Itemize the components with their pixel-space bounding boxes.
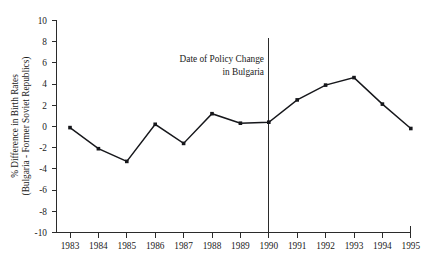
x-tick-label: 1989 — [231, 241, 250, 251]
y-tick-label: 8 — [42, 37, 47, 47]
x-axis-ticks — [70, 233, 411, 238]
y-axis-ticks — [52, 20, 57, 232]
x-tick-label: 1986 — [146, 241, 165, 251]
data-point-marker — [97, 147, 101, 151]
y-axis-title-line1: % Difference in Birth Rates — [10, 74, 20, 178]
chart-canvas: 10 8 6 4 2 0 -2 -4 -6 -8 -10 — [0, 0, 426, 258]
y-tick-label: 2 — [42, 101, 47, 111]
x-tick-label: 1995 — [402, 241, 421, 251]
data-point-marker — [267, 120, 271, 124]
y-tick-label: -8 — [39, 207, 47, 217]
x-tick-label: 1990 — [260, 241, 279, 251]
birth-rate-difference-series — [70, 78, 411, 162]
x-tick-label: 1994 — [373, 241, 392, 251]
x-tick-label: 1991 — [288, 241, 307, 251]
policy-annotation-line1: Date of Policy Change — [180, 54, 264, 64]
data-point-marker — [210, 112, 214, 116]
policy-annotation-line2: in Bulgaria — [222, 67, 264, 77]
birth-rate-difference-chart: 10 8 6 4 2 0 -2 -4 -6 -8 -10 — [0, 0, 426, 258]
x-tick-label: 1993 — [345, 241, 364, 251]
data-point-marker — [125, 160, 129, 164]
x-tick-label: 1983 — [61, 241, 80, 251]
y-axis-tick-labels: 10 8 6 4 2 0 -2 -4 -6 -8 -10 — [35, 16, 48, 238]
y-tick-label: 4 — [42, 79, 47, 89]
y-tick-label: -6 — [39, 185, 47, 195]
y-tick-label: 10 — [38, 16, 48, 26]
data-point-marker — [409, 127, 413, 131]
data-point-marker — [153, 123, 157, 127]
x-tick-label: 1988 — [203, 241, 222, 251]
x-tick-label: 1992 — [316, 241, 335, 251]
data-point-marker — [324, 83, 328, 87]
data-point-marker — [352, 76, 356, 80]
data-point-marker — [239, 121, 243, 125]
y-axis-title-line2: (Bulgaria - Former Soviet Republics) — [21, 57, 32, 196]
data-point-markers — [68, 76, 412, 163]
y-tick-label: 6 — [42, 58, 47, 68]
y-tick-label: -2 — [39, 143, 47, 153]
x-tick-label: 1984 — [89, 241, 108, 251]
x-tick-label: 1985 — [118, 241, 137, 251]
data-point-marker — [381, 102, 385, 106]
x-axis-tick-labels: 1983 1984 1985 1986 1987 1988 1989 1990 … — [61, 241, 421, 251]
x-tick-label: 1987 — [174, 241, 193, 251]
y-tick-label: 0 — [42, 122, 47, 132]
data-point-marker — [295, 98, 299, 102]
data-point-marker — [182, 142, 186, 146]
y-tick-label: -4 — [39, 164, 47, 174]
y-tick-label: -10 — [35, 228, 48, 238]
data-point-marker — [68, 126, 72, 130]
